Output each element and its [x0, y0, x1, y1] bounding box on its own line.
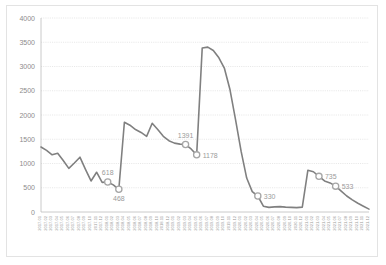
x-axis-tick-label: 2018.01: [104, 215, 109, 231]
x-axis-tick-label: 2021.04: [321, 215, 326, 231]
x-axis-tick-label: 2020.12: [298, 215, 303, 231]
data-point-marker: [105, 179, 111, 185]
data-point-label: 735: [325, 173, 337, 180]
y-axis-tick-label: 1500: [19, 136, 35, 143]
x-axis-tick-label: 2019.09: [215, 215, 220, 231]
x-axis-tick-label: 2020.06: [265, 215, 270, 231]
x-axis-tick-label: 2017.08: [76, 215, 81, 231]
x-axis-tick-label: 2017.07: [70, 215, 75, 231]
chart-container: 050010001500200025003000350040002017.012…: [6, 5, 378, 257]
x-axis-tick-label: 2018.02: [109, 215, 114, 231]
data-point-label: 330: [264, 193, 276, 200]
x-axis-tick-label: 2018.10: [154, 215, 159, 231]
data-point-label: 533: [342, 183, 354, 190]
data-point-marker: [116, 186, 122, 192]
x-axis-tick-label: 2017.12: [98, 215, 103, 231]
x-axis-tick-label: 2021.02: [309, 215, 314, 231]
x-axis-tick-label: 2018.08: [143, 215, 148, 231]
x-axis-tick-label: 2019.05: [193, 215, 198, 231]
x-axis-tick-label: 2020.02: [243, 215, 248, 231]
x-axis-tick-label: 2019.03: [182, 215, 187, 231]
x-axis-tick-label: 2020.04: [254, 215, 259, 231]
x-axis-tick-label: 2018.06: [132, 215, 137, 231]
x-axis-tick-label: 2019.06: [198, 215, 203, 231]
x-axis-tick-label: 2019.12: [232, 215, 237, 231]
data-point-marker: [182, 141, 188, 147]
data-point-label: 1178: [203, 152, 218, 159]
x-axis-tick-label: 2017.04: [54, 215, 59, 231]
x-axis-tick-label: 2021.07: [337, 215, 342, 231]
x-axis-tick-label: 2018.12: [165, 215, 170, 231]
x-axis-tick-label: 2018.04: [120, 215, 125, 231]
x-axis-tick-label: 2021.11: [359, 215, 364, 230]
y-axis-tick-label: 4000: [19, 15, 35, 22]
x-axis-tick-label: 2019.08: [209, 215, 214, 231]
x-axis-tick-label: 2018.03: [115, 215, 120, 231]
x-axis-tick-label: 2017.01: [37, 215, 42, 231]
x-axis-tick-label: 2021.06: [332, 215, 337, 231]
x-axis-tick-label: 2019.02: [176, 215, 181, 231]
x-axis-tick-label: 2020.05: [259, 215, 264, 231]
x-axis-tick-label: 2021.09: [348, 215, 353, 231]
x-axis-tick-label: 2019.01: [170, 215, 175, 231]
x-axis-tick-label: 2021.10: [354, 215, 359, 231]
x-axis-tick-label: 2020.09: [282, 215, 287, 231]
line-chart: 050010001500200025003000350040002017.012…: [7, 6, 377, 256]
data-point-marker: [316, 173, 322, 179]
x-axis-tick-label: 2020.01: [237, 215, 242, 231]
x-axis-tick-label: 2021.03: [315, 215, 320, 231]
x-axis-tick-label: 2018.05: [126, 215, 131, 231]
data-point-marker: [255, 193, 261, 199]
x-axis-tick-label: 2017.09: [81, 215, 86, 231]
x-axis-tick-label: 2018.09: [148, 215, 153, 231]
x-axis-tick-label: 2020.11: [293, 215, 298, 230]
x-axis-tick-label: 2017.11: [93, 215, 98, 230]
data-point-marker: [333, 183, 339, 189]
x-axis-tick-label: 2020.08: [276, 215, 281, 231]
x-axis-tick-label: 2020.07: [270, 215, 275, 231]
x-axis-tick-label: 2017.06: [65, 215, 70, 231]
y-axis-tick-label: 2000: [19, 112, 35, 119]
x-axis-tick-label: 2021.05: [326, 215, 331, 231]
y-axis-tick-label: 3000: [19, 63, 35, 70]
x-axis-tick-label: 2018.11: [159, 215, 164, 230]
x-axis-tick-label: 2021.01: [304, 215, 309, 231]
y-axis-tick-label: 0: [31, 209, 35, 216]
x-axis-tick-label: 2017.03: [48, 215, 53, 231]
y-axis-tick-label: 500: [23, 184, 35, 191]
x-axis-tick-label: 2019.10: [220, 215, 225, 231]
y-axis-tick-label: 3500: [19, 39, 35, 46]
data-point-label: 618: [102, 169, 114, 176]
x-axis-tick-label: 2019.07: [204, 215, 209, 231]
x-axis-tick-label: 2019.11: [226, 215, 231, 230]
data-line: [41, 47, 369, 209]
data-point-label: 1391: [178, 132, 194, 139]
x-axis-tick-label: 2021.08: [343, 215, 348, 231]
x-axis-tick-label: 2020.10: [287, 215, 292, 231]
data-point-marker: [194, 152, 200, 158]
y-axis-tick-label: 2500: [19, 87, 35, 94]
x-axis-tick-label: 2018.07: [137, 215, 142, 231]
y-axis-tick-label: 1000: [19, 160, 35, 167]
data-point-label: 468: [113, 195, 125, 202]
x-axis-tick-label: 2020.03: [248, 215, 253, 231]
x-axis-tick-label: 2019.04: [187, 215, 192, 231]
x-axis-tick-label: 2021.12: [365, 215, 370, 231]
x-axis-tick-label: 2017.10: [87, 215, 92, 231]
x-axis-tick-label: 2017.05: [59, 215, 64, 231]
x-axis-tick-label: 2017.02: [43, 215, 48, 231]
